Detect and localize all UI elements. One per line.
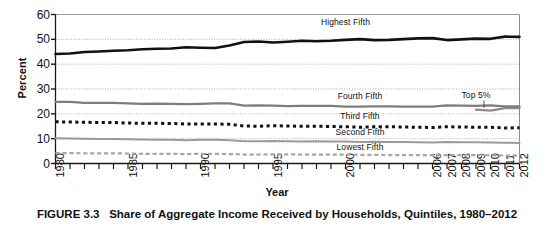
series-line-top-5 [476, 108, 520, 110]
series-line-fourth-fifth [56, 102, 520, 107]
series-label-highest-fifth: Highest Fifth [321, 18, 370, 27]
series-label-third-fifth: Third Fifth [340, 112, 379, 121]
series-line-third-fifth [56, 122, 520, 128]
x-axis-title: Year [0, 186, 554, 198]
series-label-fourth-fifth: Fourth Fifth [338, 92, 383, 101]
figure-number: FIGURE 3.3 [37, 208, 100, 220]
figure-caption: FIGURE 3.3 Share of Aggregate Income Rec… [0, 208, 554, 220]
chart-figure: Percent 0102030405060 198019851990199520… [0, 0, 554, 200]
figure-panel: Percent 0102030405060 198019851990199520… [0, 0, 554, 232]
figure-caption-text: Share of Aggregate Income Received by Ho… [109, 208, 517, 220]
series-label-second-fifth: Second Fifth [336, 128, 385, 137]
series-label-top-5: Top 5% [462, 91, 491, 100]
series-line-lowest-fifth [56, 153, 520, 155]
series-label-lowest-fifth: Lowest Fifth [336, 143, 383, 152]
